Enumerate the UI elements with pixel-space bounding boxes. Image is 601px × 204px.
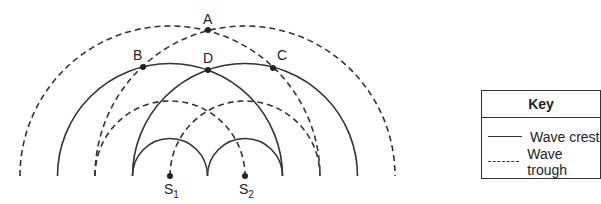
source-s2-dot <box>242 173 248 179</box>
point-b-dot <box>140 64 146 70</box>
source-label-s1: S1 <box>164 182 179 200</box>
point-d-dot <box>205 67 211 73</box>
point-label-d: D <box>203 51 213 65</box>
solid-line-icon <box>488 136 522 137</box>
source-label-s2: S2 <box>239 182 254 200</box>
point-a-dot <box>205 27 211 33</box>
point-label-c: C <box>277 48 287 62</box>
key-item-trough: Wave trough <box>482 149 600 174</box>
key-title: Key <box>482 91 600 118</box>
dashed-line-icon <box>488 161 519 162</box>
source-s1-dot <box>167 173 173 179</box>
point-label-b: B <box>133 48 142 62</box>
s2-crest-1 <box>208 139 283 176</box>
point-c-dot <box>270 65 276 71</box>
s2-crest-2 <box>133 64 358 176</box>
key-legend: Key Wave crest Wave trough <box>481 90 601 179</box>
key-label-trough: Wave trough <box>527 146 600 178</box>
point-label-a: A <box>203 12 212 26</box>
s1-crest-2 <box>58 64 283 176</box>
key-label-crest: Wave crest <box>530 129 600 145</box>
